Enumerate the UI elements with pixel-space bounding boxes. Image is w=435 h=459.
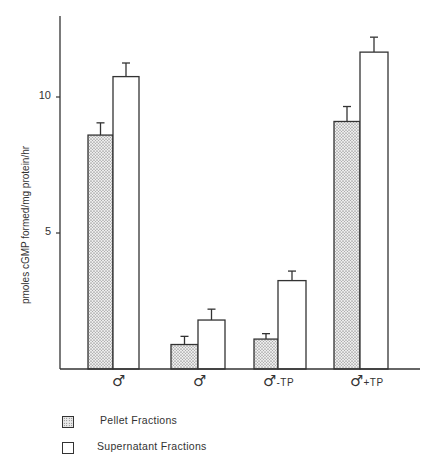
- bars-group: [88, 37, 388, 369]
- y-tick-label-10: 10: [31, 89, 51, 101]
- male-symbol-icon: ♂: [350, 372, 363, 390]
- legend-supernatant: [62, 441, 74, 455]
- bar-pellet: [171, 345, 198, 369]
- y-axis-label: pmoles cGMP formed/mg protein/hr: [20, 146, 31, 304]
- open-swatch-icon: [62, 442, 74, 454]
- bar-supernatant: [113, 77, 139, 369]
- x-label-castrate-plus-tp: ♂+TP: [350, 372, 384, 390]
- male-symbol-icon: ♂: [193, 372, 206, 390]
- bar-chart: [0, 0, 435, 459]
- bar-pellet: [254, 339, 278, 369]
- legend-supernatant-label: Supernatant Fractions: [97, 440, 207, 452]
- stippled-swatch-icon: [62, 416, 74, 428]
- x-label-male: ♂: [112, 372, 125, 390]
- bar-supernatant: [198, 320, 225, 369]
- bar-supernatant: [360, 52, 388, 369]
- legend-pellet: [62, 415, 74, 429]
- male-symbol-icon: ♂: [112, 372, 125, 390]
- bar-pellet: [334, 121, 360, 369]
- x-label-castrate-minus-tp: ♂-TP: [263, 372, 294, 390]
- bar-pellet: [88, 135, 113, 369]
- legend-pellet-label: Pellet Fractions: [100, 414, 177, 426]
- bar-supernatant: [278, 281, 306, 369]
- male-symbol-icon: ♂: [263, 372, 276, 390]
- y-tick-label-5: 5: [31, 225, 51, 237]
- x-label-castrate: ♂: [193, 372, 206, 390]
